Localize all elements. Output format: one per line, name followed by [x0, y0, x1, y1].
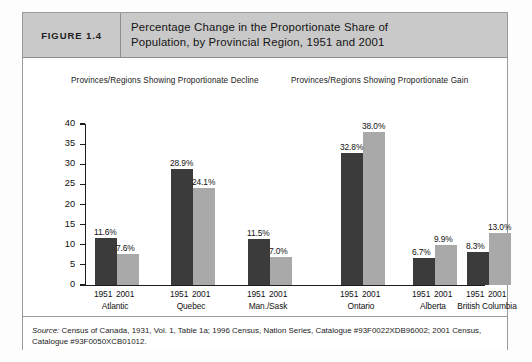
x-year-label: 1951 [466, 289, 484, 299]
bar-1951-ontario [341, 153, 363, 285]
bar-value-label: 8.3% [466, 241, 485, 251]
x-year-label: 1951 [340, 289, 358, 299]
bar-2001-atlantic [117, 254, 139, 285]
bar-2001-british-columbia [489, 233, 511, 285]
x-year-label: 2001 [116, 289, 134, 299]
x-year-label: 2001 [488, 289, 506, 299]
x-year-label: 1951 [94, 289, 112, 299]
x-year-label: 2001 [434, 289, 452, 299]
x-category-label: British Columbia [457, 301, 516, 311]
figure-title-line-2: Population, by Provincial Region, 1951 a… [131, 35, 497, 50]
chart-body: Provinces/Regions Showing Proportionate … [23, 58, 507, 316]
figure-frame: FIGURE 1.4 Percentage Change in the Prop… [22, 12, 508, 350]
x-year-label: 1951 [412, 289, 430, 299]
figure-title-cell: Percentage Change in the Proportionate S… [121, 13, 507, 57]
source-note: Source: Census of Canada, 1931, Vol. 1, … [23, 316, 507, 350]
bar-value-label: 11.6% [94, 227, 117, 237]
source-line-1: Census of Canada, 1931, Vol. 1, Table 1a… [59, 326, 450, 335]
plot-area: 0510152025303540 19512001Atlantic1951200… [23, 58, 507, 316]
figure-number-label: FIGURE 1.4 [41, 30, 102, 41]
bars-layer [23, 58, 507, 285]
bar-value-label: 9.9% [434, 234, 453, 244]
bar-value-label: 11.5% [247, 228, 270, 238]
bar-1951-alberta [413, 258, 435, 285]
bar-1951-quebec [171, 169, 193, 285]
bar-value-label: 38.0% [362, 121, 385, 131]
x-category-label: Quebec [177, 301, 206, 311]
bar-1951-atlantic [95, 238, 117, 285]
bar-2001-man-sask [270, 257, 292, 285]
figure-title-line-1: Percentage Change in the Proportionate S… [131, 20, 497, 35]
bar-2001-ontario [363, 132, 385, 285]
x-category-label: Alberta [420, 301, 446, 311]
x-axis-line [85, 285, 485, 286]
figure-header: FIGURE 1.4 Percentage Change in the Prop… [23, 13, 507, 58]
bar-value-label: 32.8% [340, 142, 363, 152]
bar-value-label: 24.1% [192, 177, 215, 187]
bar-value-label: 28.9% [170, 158, 193, 168]
bar-2001-alberta [435, 245, 457, 285]
x-year-label: 2001 [362, 289, 380, 299]
source-label: Source: [32, 326, 59, 335]
x-year-label: 1951 [247, 289, 265, 299]
x-year-label: 2001 [192, 289, 210, 299]
x-year-label: 1951 [170, 289, 188, 299]
source-note-text: Source: Census of Canada, 1931, Vol. 1, … [32, 325, 498, 347]
bar-2001-quebec [193, 188, 215, 285]
figure-number-cell: FIGURE 1.4 [23, 13, 121, 57]
bar-value-label: 7.0% [269, 246, 288, 256]
bar-value-label: 13.0% [488, 222, 511, 232]
figure-container: FIGURE 1.4 Percentage Change in the Prop… [0, 0, 532, 362]
bar-1951-british-columbia [467, 252, 489, 285]
x-category-label: Atlantic [102, 301, 129, 311]
x-category-label: Ontario [348, 301, 375, 311]
bar-value-label: 7.6% [116, 243, 135, 253]
bar-1951-man-sask [248, 239, 270, 285]
x-category-label: Man./Sask [249, 301, 288, 311]
x-year-label: 2001 [269, 289, 287, 299]
bar-value-label: 6.7% [412, 247, 431, 257]
